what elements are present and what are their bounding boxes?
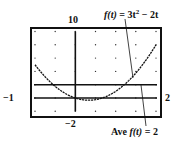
grid-dot — [95, 31, 96, 32]
grid-dot — [95, 44, 96, 45]
grid-dot — [115, 31, 116, 32]
grid-dot — [135, 31, 136, 32]
grid-dot — [95, 57, 96, 58]
grid-dot — [115, 111, 116, 112]
grid-dot — [34, 57, 35, 58]
grid-dot — [95, 111, 96, 112]
average-value: = 2 — [142, 126, 158, 137]
equation-tail: − 2t — [139, 9, 158, 20]
grid-dot — [135, 44, 136, 45]
y-max-tick-label: 10 — [68, 15, 78, 25]
grid-dot — [55, 111, 56, 112]
average-function-name: f(t) — [129, 126, 142, 137]
x-max-tick-label: 2 — [165, 93, 170, 103]
grid-dot — [155, 57, 156, 58]
function-curve — [35, 45, 156, 100]
equation-function-name: f(t) — [104, 9, 117, 20]
grid-dot — [55, 31, 56, 32]
grid-dot — [55, 57, 56, 58]
y-min-tick-label: −2 — [65, 119, 76, 129]
grid-dot — [155, 31, 156, 32]
x-min-tick-label: −1 — [3, 93, 14, 103]
average-prefix: Ave — [111, 126, 129, 137]
equation-label: f(t) = 3t2 − 2t — [104, 7, 158, 20]
average-callout-line — [141, 85, 146, 126]
grid-dot — [155, 71, 156, 72]
average-label: Ave f(t) = 2 — [111, 127, 158, 137]
grid-dot — [34, 31, 35, 32]
equation-body: = 3t — [117, 9, 136, 20]
grid-dot — [155, 111, 156, 112]
grid-dot — [135, 111, 136, 112]
grid-dot — [115, 57, 116, 58]
grid-dot — [34, 111, 35, 112]
screen-frame — [31, 28, 161, 117]
grid-dot — [135, 57, 136, 58]
grid-dot — [55, 71, 56, 72]
grid-dot — [115, 71, 116, 72]
grid-dot — [34, 71, 35, 72]
grid-dot — [115, 44, 116, 45]
calculator-graph-figure: f(t) = 3t2 − 2t Ave f(t) = 2 −1 2 10 −2 — [0, 0, 182, 151]
grid-dot — [55, 44, 56, 45]
grid-dot — [34, 44, 35, 45]
grid-dot — [95, 71, 96, 72]
